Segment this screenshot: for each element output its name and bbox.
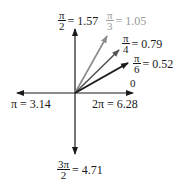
fraction-pi-over-3: π 3 bbox=[106, 10, 114, 31]
value-pi-over-4: = 0.79 bbox=[132, 38, 163, 50]
fraction-pi-over-6: π 6 bbox=[133, 53, 141, 74]
label-pi-over-6: π 6 = 0.52 bbox=[133, 53, 173, 74]
label-two-pi: 2π = 6.28 bbox=[92, 98, 138, 110]
value-pi-over-3: = 1.05 bbox=[116, 15, 147, 27]
value-pi-over-6: = 0.52 bbox=[143, 58, 174, 70]
label-pi-over-2: π 2 = 1.57 bbox=[58, 10, 98, 31]
label-pi-over-4: π 4 = 0.79 bbox=[122, 33, 162, 54]
label-zero: 0 bbox=[130, 78, 136, 89]
fraction-three-pi-over-2: 3π 2 bbox=[57, 159, 70, 180]
value-pi-over-2: = 1.57 bbox=[68, 15, 99, 27]
fraction-pi-over-4: π 4 bbox=[122, 33, 130, 54]
value-three-pi-over-2: = 4.71 bbox=[72, 164, 103, 176]
fraction-pi-over-2: π 2 bbox=[58, 10, 66, 31]
label-pi-over-3: π 3 = 1.05 bbox=[106, 10, 146, 31]
label-pi: π = 3.14 bbox=[11, 98, 51, 110]
label-three-pi-over-2: 3π 2 = 4.71 bbox=[57, 159, 103, 180]
